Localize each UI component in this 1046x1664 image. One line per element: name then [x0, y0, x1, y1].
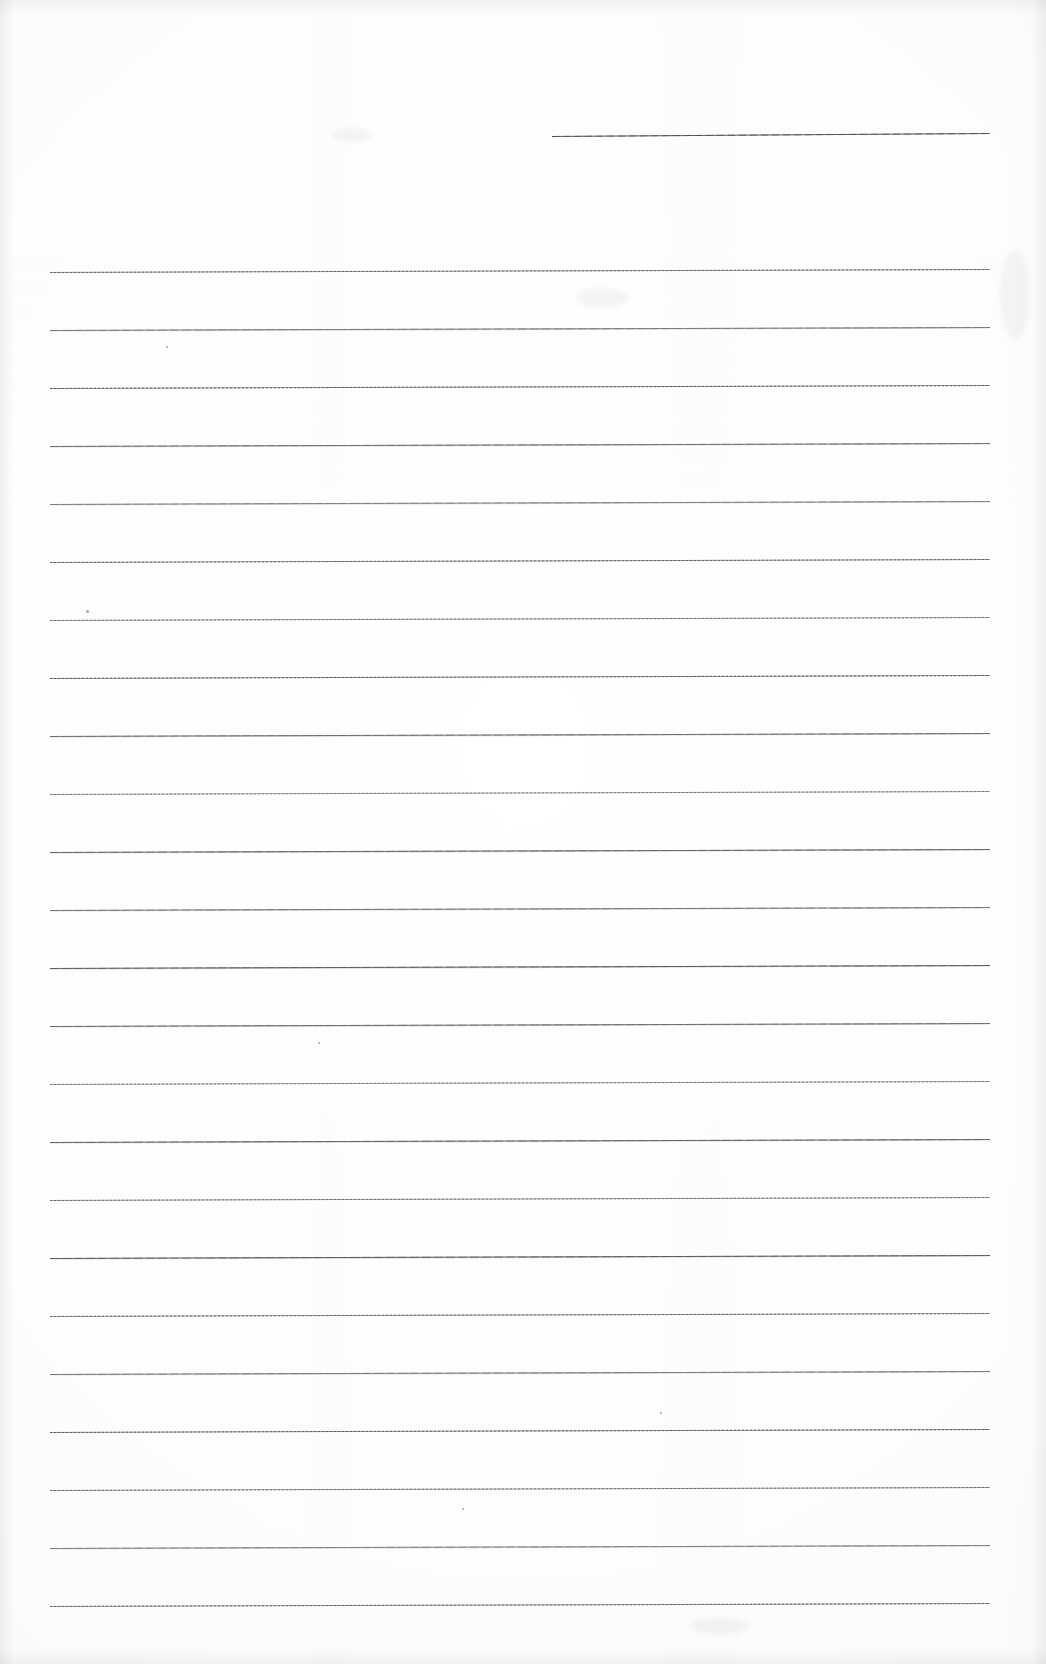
paper-surface — [0, 0, 1046, 1664]
scanned-page — [0, 0, 1046, 1664]
